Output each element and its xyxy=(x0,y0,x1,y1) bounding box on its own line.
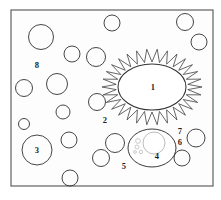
callout-label-1: 1 xyxy=(151,83,155,92)
callout-label-4: 4 xyxy=(155,152,159,161)
callout-label-8: 8 xyxy=(35,61,39,70)
diagram-svg xyxy=(0,0,221,200)
callout-label-5: 5 xyxy=(122,162,126,171)
callout-label-3: 3 xyxy=(35,146,39,155)
figure-canvas: 12345678 xyxy=(0,0,221,200)
callout-label-7: 7 xyxy=(178,127,182,136)
callout-label-2: 2 xyxy=(103,116,107,125)
callout-label-6: 6 xyxy=(178,138,182,147)
